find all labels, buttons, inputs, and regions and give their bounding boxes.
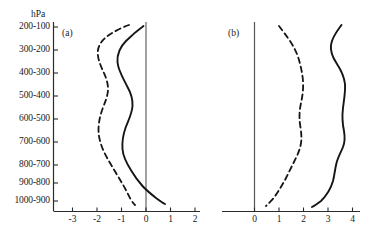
y-tick-label-500-400: 500-400 <box>0 91 50 101</box>
pressure-unit-label: hPa <box>24 10 52 20</box>
panel-a-label: (a) <box>62 28 73 38</box>
panel-b-axes <box>222 22 360 212</box>
panel-a-x-tick-label--3: -3 <box>63 215 83 225</box>
y-tick-label-600-500: 600-500 <box>0 114 50 124</box>
y-tick-label-200-100: 200-100 <box>0 22 50 32</box>
panel-a-dashed-curve <box>98 25 135 205</box>
panel-b-dashed-curve <box>266 26 303 206</box>
y-tick-label-900-800: 900-800 <box>0 178 50 188</box>
panel-b-x-tick-label-1: 1 <box>269 215 289 225</box>
y-tick-label-700-600: 700-600 <box>0 137 50 147</box>
y-tick-label-800-700: 800-700 <box>0 160 50 170</box>
panel-b-x-tick-label-0: 0 <box>245 215 265 225</box>
panel-b-label: (b) <box>228 28 239 38</box>
panel-b-x-tick-label-2: 2 <box>294 215 314 225</box>
y-tick-label-1000-900: 1000-900 <box>0 196 50 206</box>
y-tick-label-300-200: 300-200 <box>0 45 50 55</box>
panel-a-x-tick-label--2: -2 <box>87 215 107 225</box>
figure-container: hPa 200-100 300-200 400-300 500-400 600-… <box>0 0 369 245</box>
panel-a-x-tick-label--1: -1 <box>112 215 132 225</box>
panel-a-solid-curve <box>117 26 165 204</box>
panel-a-x-tick-label-1: 1 <box>161 215 181 225</box>
plot-canvas <box>0 0 369 245</box>
panel-b-x-tick-label-3: 3 <box>318 215 338 225</box>
panel-a-y-ticks <box>54 27 59 201</box>
y-tick-label-400-300: 400-300 <box>0 68 50 78</box>
panel-a-x-tick-label-0: 0 <box>136 215 156 225</box>
panel-a-x-tick-label-2: 2 <box>185 215 205 225</box>
panel-b-x-tick-label-4: 4 <box>343 215 363 225</box>
panel-a-axes <box>54 22 201 212</box>
panel-b-solid-curve <box>312 25 345 207</box>
